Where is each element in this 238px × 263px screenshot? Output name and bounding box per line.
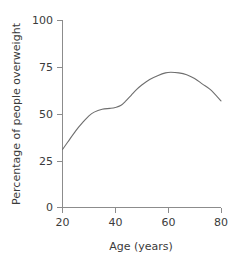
y-tick-label-0: 0 (46, 201, 53, 214)
x-axis-title: Age (years) (109, 240, 173, 253)
y-tick-label-50: 50 (39, 108, 53, 121)
y-axis-title: Percentage of people overweight (10, 22, 23, 205)
y-tick-label-75: 75 (39, 61, 53, 74)
x-tick-label-20: 20 (56, 216, 70, 229)
line-chart-plot: 100 75 50 25 0 20 40 60 80 Age (years) P… (0, 0, 238, 263)
chart-container: 100 75 50 25 0 20 40 60 80 Age (years) P… (0, 0, 238, 263)
x-tick-label-40: 40 (109, 216, 123, 229)
overweight-percentage-curve (63, 72, 222, 149)
x-tick-label-60: 60 (162, 216, 176, 229)
y-tick-label-100: 100 (32, 14, 53, 27)
x-tick-label-80: 80 (214, 216, 228, 229)
y-tick-label-25: 25 (39, 155, 53, 168)
